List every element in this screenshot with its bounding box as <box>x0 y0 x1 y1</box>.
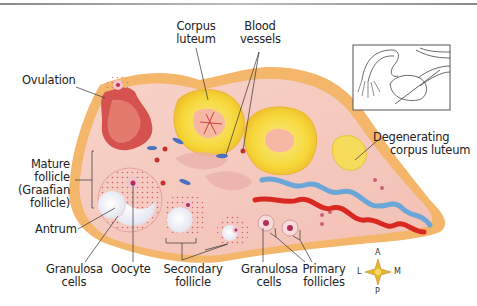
label-antrum: Antrum <box>35 223 77 236</box>
mature-follicle <box>98 168 162 232</box>
secondary-follicle-2 <box>217 215 249 247</box>
label-blood-vessels: Blood vessels <box>240 20 280 46</box>
label-primary-follicles: Primary follicles <box>302 263 346 289</box>
compass-rose-icon <box>365 259 391 285</box>
label-granulosa-cells-left: Granulosa cells <box>46 263 102 289</box>
label-granulosa-cells-right: Granulosa cells <box>241 263 297 289</box>
compass-posterior: P <box>375 287 380 296</box>
orientation-inset <box>353 45 450 110</box>
vessel-artery-1 <box>163 147 168 152</box>
corpus-luteum-large <box>244 107 317 175</box>
label-secondary-follicle: Secondary follicle <box>163 263 223 289</box>
secondary-follicle-1 <box>163 193 207 237</box>
label-corpus-luteum: Corpus luteum <box>176 20 216 46</box>
label-mature-follicle: Mature follicle (Graafian follicle) <box>18 158 70 210</box>
corpus-luteum <box>174 90 244 156</box>
compass-lateral: L <box>357 267 361 276</box>
label-degenerating-corpus-luteum: Degenerating corpus luteum <box>373 131 470 157</box>
label-oocyte: Oocyte <box>111 263 151 276</box>
compass-anterior: A <box>375 248 380 257</box>
label-ovulation: Ovulation <box>22 74 76 87</box>
compass-medial: M <box>394 267 401 276</box>
primary-follicle-2 <box>282 220 298 236</box>
primary-follicle-1 <box>258 215 274 231</box>
